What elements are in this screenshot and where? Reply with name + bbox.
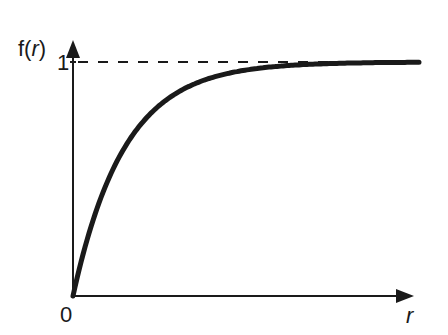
figure-canvas: f(r) 1 0 r (0, 0, 448, 335)
y-axis-label: f(r) (18, 36, 46, 61)
y-tick-label-1: 1 (57, 50, 69, 75)
x-axis-arrow-icon (396, 289, 414, 303)
curve-f-of-r (73, 62, 419, 296)
x-axis-label: r (406, 303, 415, 328)
origin-label: 0 (60, 302, 72, 327)
